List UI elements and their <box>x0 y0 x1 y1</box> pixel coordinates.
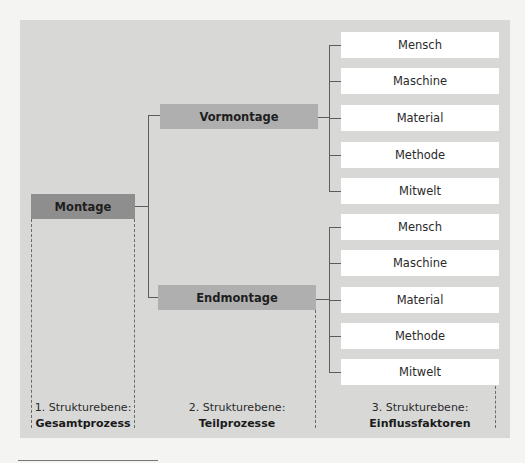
page-bottom-rule <box>18 460 158 461</box>
factor-label: Material <box>397 111 444 125</box>
connector-vm-material <box>329 118 341 119</box>
node-vormontage-label: Vormontage <box>199 110 278 124</box>
factor-endmontage-mitwelt: Mitwelt <box>341 359 499 385</box>
connector-em-methode <box>329 336 341 337</box>
factor-vormontage-maschine: Maschine <box>341 68 499 94</box>
factor-label: Methode <box>395 329 445 343</box>
connector-em-material <box>329 300 341 301</box>
factor-vormontage-material: Material <box>341 105 499 131</box>
factor-vormontage-mitwelt: Mitwelt <box>341 178 499 204</box>
column-label-level1-name: Gesamtprozess <box>31 416 135 432</box>
dashed-guide-col1-right <box>134 219 135 428</box>
factor-label: Maschine <box>393 256 447 270</box>
connector-em-maschine <box>329 263 341 264</box>
connector-level2-trunk <box>148 115 149 298</box>
connector-em-mensch <box>329 227 341 228</box>
factor-vormontage-mensch: Mensch <box>341 32 499 58</box>
factor-endmontage-maschine: Maschine <box>341 250 499 276</box>
factor-endmontage-methode: Methode <box>341 323 499 349</box>
factor-label: Mitwelt <box>399 184 441 198</box>
connector-to-vormontage <box>148 115 160 116</box>
column-label-level1-title: 1. Strukturebene: <box>31 400 135 416</box>
node-endmontage: Endmontage <box>158 285 316 310</box>
column-label-level2-title: 2. Strukturebene: <box>158 400 316 416</box>
column-label-level3-name: Einflussfaktoren <box>341 416 499 432</box>
connector-to-endmontage <box>148 297 158 298</box>
column-label-level3-title: 3. Strukturebene: <box>341 400 499 416</box>
connector-vm-mitwelt <box>329 191 341 192</box>
factor-endmontage-mensch: Mensch <box>341 214 499 240</box>
connector-vormontage-stub <box>318 117 329 118</box>
dashed-guide-col1-left <box>31 219 32 428</box>
node-montage-label: Montage <box>55 200 112 214</box>
factor-label: Mensch <box>398 38 442 52</box>
column-label-level1: 1. Strukturebene: Gesamtprozess <box>31 400 135 432</box>
column-label-level3: 3. Strukturebene: Einflussfaktoren <box>341 400 499 432</box>
connector-vm-maschine <box>329 81 341 82</box>
node-vormontage: Vormontage <box>160 104 318 129</box>
connector-montage-stub <box>135 206 148 207</box>
factor-vormontage-methode: Methode <box>341 142 499 168</box>
factor-label: Material <box>397 293 444 307</box>
factor-endmontage-material: Material <box>341 287 499 313</box>
factor-label: Mitwelt <box>399 365 441 379</box>
connector-vm-methode <box>329 155 341 156</box>
column-label-level2: 2. Strukturebene: Teilprozesse <box>158 400 316 432</box>
column-label-level2-name: Teilprozesse <box>158 416 316 432</box>
node-endmontage-label: Endmontage <box>196 291 278 305</box>
factor-label: Mensch <box>398 220 442 234</box>
factor-label: Methode <box>395 148 445 162</box>
connector-endmontage-stub <box>316 299 329 300</box>
connector-vm-mensch <box>329 45 341 46</box>
factor-label: Maschine <box>393 74 447 88</box>
connector-em-mitwelt <box>329 372 341 373</box>
node-montage: Montage <box>31 194 135 219</box>
